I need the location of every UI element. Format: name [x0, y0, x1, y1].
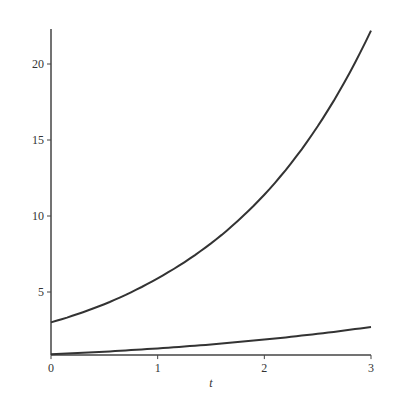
axes: 01235101520 — [32, 29, 374, 375]
series-line-0 — [51, 31, 371, 323]
x-tick-label: 0 — [48, 361, 54, 375]
series-line-1 — [51, 327, 371, 354]
y-tick-label: 20 — [32, 57, 44, 71]
y-tick-label: 10 — [32, 209, 44, 223]
x-axis-label: t — [209, 376, 213, 390]
chart: 01235101520 t — [0, 0, 394, 410]
x-tick-label: 2 — [261, 361, 267, 375]
y-tick-label: 5 — [38, 285, 44, 299]
curves — [51, 31, 371, 355]
x-tick-label: 3 — [368, 361, 374, 375]
y-tick-label: 15 — [32, 133, 44, 147]
x-tick-label: 1 — [155, 361, 161, 375]
